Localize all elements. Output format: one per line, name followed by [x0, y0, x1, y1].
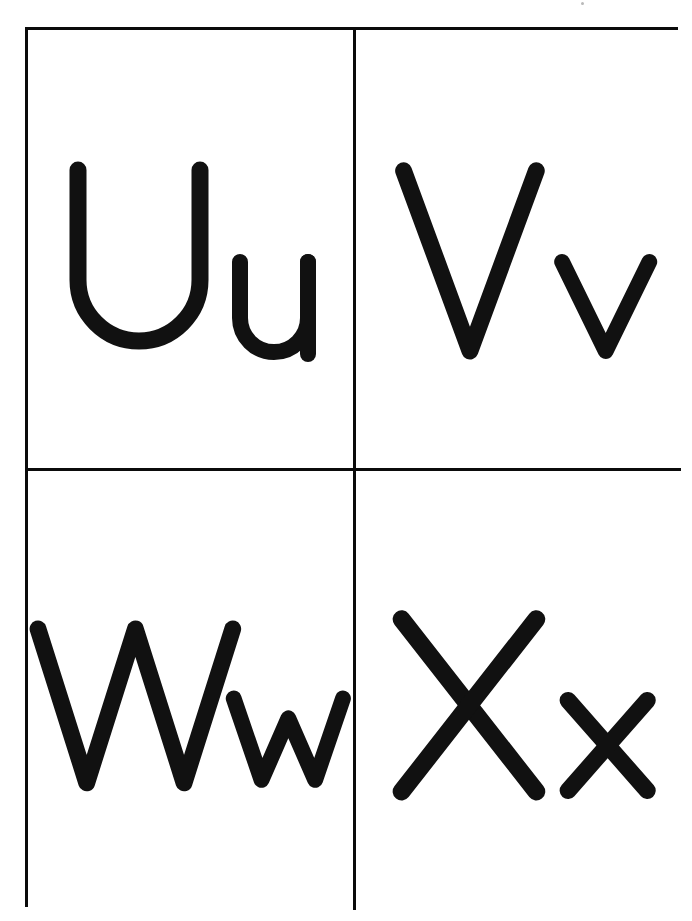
letter-pair-ww: [28, 471, 353, 910]
letter-pair-xx-svg: [356, 471, 681, 910]
letter-pair-ww-svg: [28, 471, 353, 910]
scanner-speck-artifact: [581, 2, 584, 5]
flashcard-grid: Uu Vv: [25, 27, 678, 907]
letter-pair-vv-svg: [356, 30, 681, 468]
letter-pair-uu: [28, 30, 353, 468]
lowercase-u-bowl-glyph: [240, 262, 308, 352]
lowercase-w-glyph: [234, 698, 343, 779]
flashcard-sheet: Uu Vv: [0, 0, 692, 921]
flashcard-uu[interactable]: Uu: [28, 30, 353, 468]
flashcard-vv[interactable]: Vv: [353, 30, 681, 468]
lowercase-v-glyph: [562, 262, 649, 351]
letter-pair-vv: [356, 30, 681, 468]
uppercase-w-glyph: [38, 629, 233, 783]
letter-pair-xx: [356, 471, 681, 910]
flashcard-ww[interactable]: Ww: [28, 468, 353, 910]
uppercase-u-glyph: [78, 170, 200, 341]
uppercase-v-glyph: [404, 171, 537, 351]
flashcard-xx[interactable]: Xx: [353, 468, 681, 910]
letter-pair-uu-svg: [28, 30, 353, 468]
